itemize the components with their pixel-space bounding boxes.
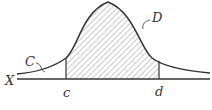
normal-curve-diagram: X C D c d	[0, 0, 212, 110]
bound-label-c: c	[63, 85, 71, 100]
axis-label-x: X	[4, 73, 15, 88]
curve-label-c: C	[25, 54, 35, 69]
leader-d	[143, 20, 150, 29]
bound-label-d: d	[155, 84, 163, 99]
region-label-d: D	[151, 10, 163, 25]
